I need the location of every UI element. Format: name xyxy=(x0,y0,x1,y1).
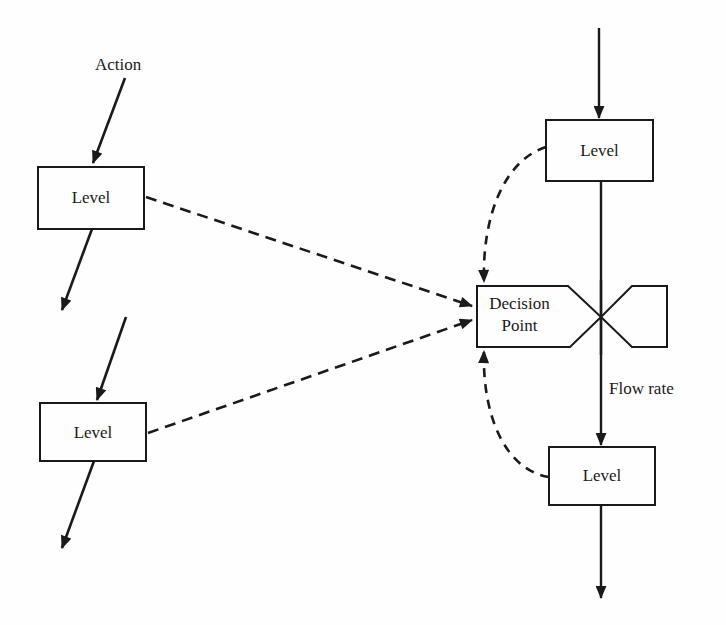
level-label-left-bottom: Level xyxy=(40,424,146,441)
action-label: Action xyxy=(95,56,141,73)
outflow-arrow-left-top xyxy=(62,229,92,310)
level-label-right-top: Level xyxy=(546,142,653,159)
decision-point-label-line1: Decision xyxy=(477,295,562,312)
level-label-right-bottom: Level xyxy=(549,467,655,484)
diagram-canvas xyxy=(0,0,726,625)
info-link-right-top xyxy=(484,147,546,282)
decision-point-label-line2: Point xyxy=(477,317,562,334)
info-link-left-top xyxy=(146,197,472,306)
info-link-left-bottom xyxy=(148,320,472,433)
valve-right-shape xyxy=(601,286,667,347)
level-label-left-top: Level xyxy=(38,189,144,206)
flow-rate-label: Flow rate xyxy=(609,380,674,397)
info-link-right-bottom xyxy=(484,351,549,477)
outflow-arrow-left-bottom xyxy=(62,461,94,548)
inflow-arrow-left-bottom xyxy=(97,317,126,400)
action-arrow xyxy=(93,78,125,163)
